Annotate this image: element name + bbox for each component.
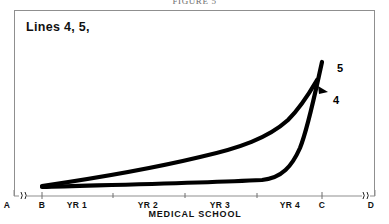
x-tick-label-yr4: YR 4 [280,200,301,210]
x-tick-label-a: A [4,200,11,210]
x-axis [14,190,375,196]
curve-4-pointer-icon [318,86,328,94]
axis-break-right-icon [363,192,368,199]
x-tick-label-c: C [319,200,326,210]
figure-container: FIGURE 5 Lines 4, 5, [0,0,389,224]
x-tick-label-d: D [368,200,375,210]
x-axis-title: MEDICAL SCHOOL [148,209,241,219]
curve-label-5: 5 [337,62,343,74]
x-tick-label-b: B [39,200,46,210]
axis-break-left-icon [21,192,26,199]
curve-label-4: 4 [333,94,339,106]
curve-line-4 [42,80,317,186]
plot-canvas [0,0,389,224]
x-tick-label-yr1: YR 1 [67,200,88,210]
